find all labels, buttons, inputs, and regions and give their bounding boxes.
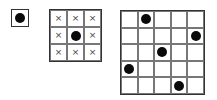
cross-mark-icon: ×: [72, 14, 80, 23]
cross-mark-icon: ×: [72, 48, 80, 57]
board-cell: [154, 44, 171, 61]
board-cell: ×: [50, 44, 67, 61]
board-cell: [187, 61, 204, 78]
cross-mark-icon: ×: [55, 48, 63, 57]
queen-dot-icon: [174, 81, 184, 91]
cross-mark-icon: ×: [55, 31, 63, 40]
board-cell: [187, 77, 204, 94]
cross-mark-icon: ×: [89, 48, 97, 57]
board-cell: [138, 11, 155, 28]
board-cell: [154, 11, 171, 28]
board-cell: [138, 61, 155, 78]
queen-dot-icon: [124, 64, 134, 74]
queen-dot-icon: [15, 13, 25, 23]
board-cell: ×: [84, 44, 101, 61]
board-cell: [171, 28, 188, 45]
board-cell: [154, 61, 171, 78]
board-cell: ×: [67, 44, 84, 61]
queen-dot-icon: [157, 47, 167, 57]
cross-mark-icon: ×: [55, 14, 63, 23]
queen-dot-icon: [191, 31, 201, 41]
board-cell: [171, 44, 188, 61]
board-cell: ×: [50, 10, 67, 27]
board-cell: [138, 44, 155, 61]
queen-dot-icon: [141, 14, 151, 24]
board-cell: [187, 44, 204, 61]
board-cell: [171, 77, 188, 94]
board-cell: [67, 27, 84, 44]
queen-dot-icon: [71, 31, 81, 41]
board-cell: [121, 77, 138, 94]
cross-mark-icon: ×: [89, 31, 97, 40]
board-5x5: [120, 10, 205, 95]
board-1x1: [11, 9, 29, 27]
board-cell: [121, 44, 138, 61]
board-cell: [12, 10, 28, 26]
board-3x3: ××××××××: [49, 9, 102, 62]
board-cell: [171, 61, 188, 78]
board-cell: [138, 77, 155, 94]
board-cell: [187, 11, 204, 28]
board-cell: [154, 77, 171, 94]
board-cell: ×: [84, 27, 101, 44]
board-cell: [138, 28, 155, 45]
board-cell: [121, 11, 138, 28]
board-cell: ×: [50, 27, 67, 44]
board-cell: [121, 61, 138, 78]
board-cell: [121, 28, 138, 45]
board-cell: ×: [67, 10, 84, 27]
board-cell: [154, 28, 171, 45]
board-cell: [171, 11, 188, 28]
board-cell: ×: [84, 10, 101, 27]
cross-mark-icon: ×: [89, 14, 97, 23]
board-cell: [187, 28, 204, 45]
